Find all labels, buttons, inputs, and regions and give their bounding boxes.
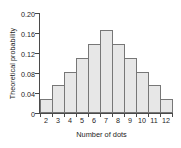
plot-area [40, 13, 173, 113]
y-tick-label: 0.08 [9, 70, 35, 79]
y-tick-label: 0 [9, 110, 35, 119]
x-axis-line [39, 113, 173, 114]
bar-12 [160, 99, 173, 113]
y-tick-label: 0.12 [9, 50, 35, 59]
x-axis-title: Number of dots [0, 130, 181, 139]
x-axis-tick-labels: 2 3 4 5 6 7 8 9 10 11 12 [40, 116, 173, 128]
y-tick-label: 0.04 [9, 90, 35, 99]
x-tick-label: 12 [159, 116, 173, 125]
chart-figure: Theoretical probability 0.20 0.16 0.12 0… [0, 0, 181, 148]
y-axis-tick-labels: 0.20 0.16 0.12 0.08 0.04 0 [9, 0, 35, 148]
y-tick-label: 0.16 [9, 30, 35, 39]
y-tick-label: 0.20 [9, 10, 35, 19]
